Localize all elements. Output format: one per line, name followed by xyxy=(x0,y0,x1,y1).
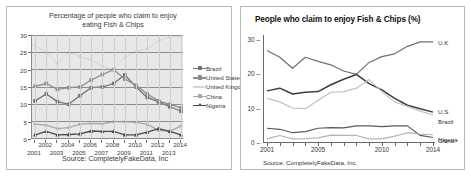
gridline xyxy=(32,87,183,88)
right-chart-x-tick-mark xyxy=(280,143,281,146)
gridline xyxy=(32,69,183,70)
legend-marker-icon xyxy=(193,64,206,73)
series-line-nigeria xyxy=(267,133,433,139)
legend-marker-icon xyxy=(193,73,206,82)
vertical-gridline xyxy=(69,35,70,138)
left-chart-y-tick-label: 25 xyxy=(7,49,27,56)
screenshot-root: Percentage of people who claim to enjoy … xyxy=(0,0,471,179)
gridline xyxy=(32,35,183,36)
left-chart-y-tick-label: 0 xyxy=(7,136,27,143)
left-chart-title-line2: eating Fish & Chips xyxy=(25,21,201,30)
legend-item-label: Brazil xyxy=(206,65,221,72)
left-chart-plot-area xyxy=(31,35,183,139)
left-chart-panel: Percentage of people who claim to enjoy … xyxy=(6,6,232,170)
left-chart-x-tick-mark xyxy=(113,140,114,143)
right-chart-x-tick-mark xyxy=(369,143,370,146)
legend-marker-icon xyxy=(193,92,206,101)
vertical-gridline xyxy=(35,35,36,138)
legend-item-label: Nigeria xyxy=(206,102,225,109)
series-label-nigeria: Nigeria xyxy=(438,135,458,142)
left-chart-y-tick-label: 10 xyxy=(7,101,27,108)
right-chart-title: People who claim to enjoy Fish & Chips (… xyxy=(255,15,455,24)
left-chart-title-line1: Percentage of people who claim to enjoy xyxy=(25,12,201,21)
right-chart-x-tick-mark xyxy=(293,143,294,146)
left-chart-x-tick-mark xyxy=(180,140,181,143)
right-chart-x-tick-mark xyxy=(331,143,332,146)
right-chart-x-tick-label: 2005 xyxy=(311,146,325,153)
left-chart-x-tick-mark xyxy=(90,140,91,143)
right-chart-source: Source: CompletelyFakeData, Inc. xyxy=(263,159,357,166)
right-chart-series-svg xyxy=(263,35,435,143)
left-chart-y-tick-label: 20 xyxy=(7,66,27,73)
series-label-us: U.S xyxy=(438,108,448,115)
left-chart-source: Source: CompletelyFakeData, Inc xyxy=(25,155,205,163)
left-chart-y-tick-mark xyxy=(28,122,31,123)
vertical-gridline xyxy=(114,35,115,138)
gridline xyxy=(32,104,183,105)
left-chart-y-tick-mark xyxy=(28,35,31,36)
right-chart-x-tick-label: 2014 xyxy=(426,146,440,153)
right-chart-y-axis-line xyxy=(263,35,264,143)
gridline xyxy=(32,52,183,53)
legend-marker-icon xyxy=(193,101,206,110)
right-chart-x-tick-mark xyxy=(344,143,345,146)
series-line-brazil xyxy=(267,80,433,115)
left-chart-y-tick-label: 5 xyxy=(7,118,27,125)
right-chart-y-tick-label: 30 – xyxy=(248,37,260,44)
left-chart-title: Percentage of people who claim to enjoy … xyxy=(25,12,201,30)
left-chart-y-tick-label: 15 xyxy=(7,84,27,91)
series-line-uk xyxy=(267,42,433,75)
vertical-gridline xyxy=(57,35,58,138)
right-chart-x-tick-label: 2010 xyxy=(375,146,389,153)
left-chart-y-tick-mark xyxy=(28,104,31,105)
vertical-gridline xyxy=(147,35,148,138)
left-chart-y-tick-mark xyxy=(28,52,31,53)
right-chart-x-tick-mark xyxy=(395,143,396,146)
right-chart-x-tick-mark xyxy=(407,143,408,146)
right-chart-y-tick-label: 0 – xyxy=(251,139,260,146)
right-chart-panel: People who claim to enjoy Fish & Chips (… xyxy=(240,6,465,170)
right-chart-x-tick-mark xyxy=(356,143,357,146)
vertical-gridline xyxy=(136,35,137,138)
vertical-gridline xyxy=(170,35,171,138)
right-chart-plot-area: 0 –10 –20 –30 – 2001200520102014 U.KU.SB… xyxy=(263,35,435,143)
vertical-gridline xyxy=(181,35,182,138)
right-chart-y-tick-label: 20 – xyxy=(248,71,260,78)
vertical-gridline xyxy=(125,35,126,138)
left-chart-y-tick-mark xyxy=(28,87,31,88)
gridline xyxy=(32,121,183,122)
left-chart-y-tick-mark xyxy=(28,70,31,71)
left-chart-x-tick-mark xyxy=(158,140,159,143)
vertical-gridline xyxy=(102,35,103,138)
left-chart-x-tick-mark xyxy=(135,140,136,143)
right-chart-x-tick-mark xyxy=(305,143,306,146)
left-chart-x-tick-mark xyxy=(68,140,69,143)
left-chart-x-tick-mark xyxy=(45,140,46,143)
right-chart-x-tick-mark xyxy=(420,143,421,146)
legend-item-label: China xyxy=(206,93,222,100)
vertical-gridline xyxy=(46,35,47,138)
vertical-gridline xyxy=(91,35,92,138)
left-chart-y-tick-label: 30 xyxy=(7,32,27,39)
series-label-uk: U.K xyxy=(438,38,448,45)
right-chart-x-tick-label: 2001 xyxy=(260,146,274,153)
vertical-gridline xyxy=(80,35,81,138)
series-label-brazil: Brazil xyxy=(438,117,453,124)
vertical-gridline xyxy=(159,35,160,138)
right-chart-x-axis-line xyxy=(263,142,435,143)
right-chart-y-tick-label: 10 – xyxy=(248,105,260,112)
legend-item-label: United States xyxy=(206,74,243,81)
legend-marker-icon xyxy=(193,82,206,91)
left-chart-y-tick-mark xyxy=(28,139,31,140)
